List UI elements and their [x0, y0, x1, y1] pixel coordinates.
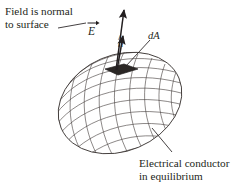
field-normal-label-line1: Field is normal	[5, 5, 73, 18]
normal-vector-symbol: ^ n	[118, 38, 123, 49]
conductor-label: Electrical conductor in equilibrium	[139, 157, 229, 183]
area-element-symbol: dA	[148, 30, 160, 41]
conductor-label-line1: Electrical conductor	[139, 157, 229, 170]
conductor-label-line2: in equilibrium	[139, 170, 229, 183]
physics-figure: Field is normal to surface E ^ n dA Elec…	[0, 0, 238, 189]
n-hat-accent-icon: ^	[118, 33, 123, 44]
E-field-symbol: E	[88, 25, 95, 37]
E-field-symbol-text: E	[88, 25, 95, 37]
field-normal-label: Field is normal to surface	[5, 5, 73, 31]
E-vector-overarrow-icon	[87, 19, 100, 25]
field-normal-label-line2: to surface	[5, 18, 73, 31]
